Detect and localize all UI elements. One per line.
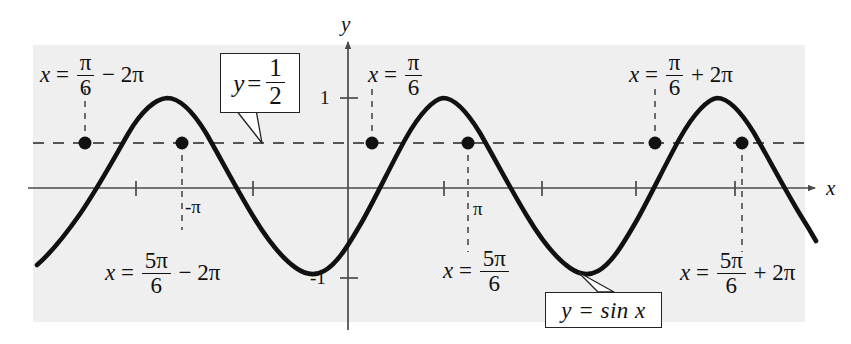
fraction-numerator: π [77,51,95,76]
annotation-eq: = [459,258,472,283]
annotation-eq: = [384,62,397,87]
annotation-sol-3: x = π 6 [368,52,424,101]
x-tick-label-pi: π [473,198,483,220]
callout-sine-curve: y = sin x [545,292,662,328]
x-tick-label-neg-pi: -π [185,196,201,218]
annotation-tail: + 2π [691,62,733,87]
y-axis-label: y [341,12,350,37]
intersection-dot [366,137,379,150]
annotation-tail: + 2π [754,260,796,285]
annotation-eq: = [696,260,709,285]
half-callout-leader [236,110,262,143]
annotation-fraction: π 6 [666,51,684,100]
callout-eq: = [247,71,261,96]
fraction-numerator: 5π [717,249,746,274]
fraction-denominator: 6 [77,76,95,100]
annotation-lhs: x [680,260,690,285]
annotation-sol-4: x = 5π 6 [443,248,511,297]
fraction-denominator: 6 [480,272,509,296]
annotation-fraction: π 6 [77,51,95,100]
annotation-fraction: 5π 6 [717,249,746,298]
intersection-dot [462,137,475,150]
annotation-fraction: 5π 6 [142,249,171,298]
sin-callout-leader [578,272,614,292]
fraction-denominator: 6 [142,274,171,298]
annotation-lhs: x [40,62,50,87]
fraction-numerator: π [405,51,423,76]
fraction-numerator: 5π [142,249,171,274]
annotation-sol-1: x = π 6 − 2π [40,52,144,101]
annotation-lhs: x [443,258,453,283]
callout-half-line: y = 1 2 [220,53,300,113]
intersection-drop-lines [85,86,742,252]
figure-sine-half-intersections: y x 1 -1 -π π x = π 6 − 2π x = 5π 6 − 2π… [0,0,851,344]
fraction-numerator: π [666,51,684,76]
callout-sine-text: y = sin x [561,299,646,322]
fraction-denominator: 6 [717,274,746,298]
annotation-tail: − 2π [102,62,144,87]
annotation-eq: = [645,62,658,87]
fraction-numerator: 1 [266,55,285,82]
annotation-sol-2: x = 5π 6 − 2π [105,250,220,299]
annotation-lhs: x [368,62,378,87]
annotation-fraction: 5π 6 [480,247,509,296]
annotation-sol-5: x = π 6 + 2π [629,52,733,101]
y-tick-label-1: 1 [320,87,330,109]
intersection-dot [176,137,189,150]
annotation-eq: = [121,260,134,285]
x-axis-label: x [826,176,835,201]
y-tick-label-neg1: -1 [310,267,326,289]
annotation-lhs: x [105,260,115,285]
intersection-dot [649,137,662,150]
annotation-sol-6: x = 5π 6 + 2π [680,250,795,299]
callout-fraction: 1 2 [266,55,285,109]
fraction-numerator: 5π [480,247,509,272]
fraction-denominator: 6 [405,76,423,100]
intersection-dot [79,137,92,150]
fraction-denominator: 6 [666,76,684,100]
fraction-denominator: 2 [266,83,285,109]
annotation-fraction: π 6 [405,51,423,100]
annotation-tail: − 2π [179,260,221,285]
callout-lhs: y [233,71,244,96]
annotation-lhs: x [629,62,639,87]
annotation-eq: = [56,62,69,87]
intersection-dot [736,137,749,150]
